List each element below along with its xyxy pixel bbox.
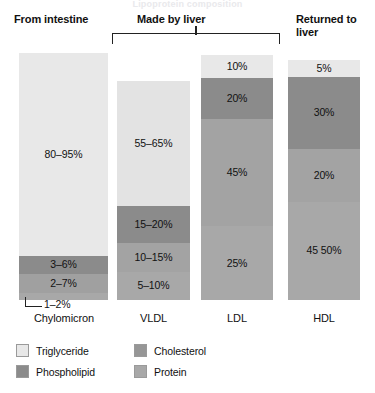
segment-label-vldl-phospholipid: 15–20% [135, 219, 173, 230]
bar-ldl: 10%20%45%25% [201, 55, 273, 300]
legend-swatch-triglyceride-icon [16, 344, 29, 357]
segment-ldl-triglyceride: 10% [201, 55, 273, 78]
segment-label-vldl-protein: 5–10% [137, 280, 169, 291]
legend-label-phospholipid: Phospholipid [36, 366, 95, 378]
segment-label-ldl-protein: 25% [227, 258, 248, 269]
group-header-from-intestine: From intestine [14, 13, 88, 26]
legend-label-cholesterol: Cholesterol [154, 345, 206, 357]
group-header-returned-to-liver: Returned to liver [296, 13, 374, 38]
cropped-title-artifact: Lipoprotein composition [0, 0, 375, 9]
segment-label-chylomicron-cholesterol: 2–7% [50, 278, 76, 289]
legend-item-cholesterol: Cholesterol [134, 344, 252, 357]
segment-vldl-protein: 5–10% [117, 272, 190, 300]
bar-vldl: 55–65%15–20%10–15%5–10% [117, 81, 190, 300]
bar-chylomicron: 80–95%3–6%2–7% [19, 53, 108, 300]
legend-swatch-protein-icon [134, 365, 147, 378]
segment-label-ldl-phospholipid: 20% [227, 93, 248, 104]
segment-label-hdl-protein: 45 50% [306, 245, 341, 256]
segment-label-vldl-triglyceride: 55–65% [135, 138, 173, 149]
segment-label-hdl-cholesterol: 20% [314, 170, 335, 181]
callout-leader-line [25, 297, 42, 307]
segment-label-hdl-triglyceride: 5% [317, 63, 332, 74]
legend: Triglyceride Cholesterol Phospholipid Pr… [16, 340, 266, 382]
segment-label-ldl-triglyceride: 10% [227, 61, 248, 72]
category-label-ldl: LDL [201, 312, 273, 324]
segment-label-vldl-cholesterol: 10–15% [135, 252, 173, 263]
segment-vldl-triglyceride: 55–65% [117, 81, 190, 206]
group-header-made-by-liver: Made by liver [137, 13, 205, 26]
legend-swatch-cholesterol-icon [134, 344, 147, 357]
group-bracket-made-by-liver [112, 33, 280, 44]
legend-item-triglyceride: Triglyceride [16, 344, 134, 357]
legend-label-triglyceride: Triglyceride [36, 345, 89, 357]
segment-chylomicron-phospholipid: 3–6% [19, 256, 108, 275]
segment-hdl-cholesterol: 20% [288, 149, 360, 202]
category-label-hdl: HDL [288, 312, 360, 324]
segment-hdl-protein: 45 50% [288, 202, 360, 300]
segment-hdl-triglyceride: 5% [288, 60, 360, 77]
segment-hdl-phospholipid: 30% [288, 77, 360, 149]
callout-label-protein-chylomicron: 1–2% [44, 299, 70, 310]
segment-ldl-protein: 25% [201, 226, 273, 300]
segment-ldl-phospholipid: 20% [201, 78, 273, 118]
legend-swatch-phospholipid-icon [16, 365, 29, 378]
legend-item-phospholipid: Phospholipid [16, 365, 134, 378]
segment-chylomicron-triglyceride: 80–95% [19, 53, 108, 256]
chart-canvas: Lipoprotein composition From intestine M… [0, 0, 375, 393]
legend-label-protein: Protein [154, 366, 187, 378]
segment-chylomicron-cholesterol: 2–7% [19, 274, 108, 293]
segment-label-ldl-cholesterol: 45% [227, 167, 248, 178]
segment-label-chylomicron-triglyceride: 80–95% [45, 149, 83, 160]
category-label-vldl: VLDL [117, 312, 190, 324]
legend-item-protein: Protein [134, 365, 252, 378]
segment-label-hdl-phospholipid: 30% [314, 107, 335, 118]
segment-label-chylomicron-phospholipid: 3–6% [50, 259, 76, 270]
segment-vldl-cholesterol: 10–15% [117, 243, 190, 271]
category-label-chylomicron: Chylomicron [9, 312, 119, 324]
segment-vldl-phospholipid: 15–20% [117, 206, 190, 243]
segment-ldl-cholesterol: 45% [201, 119, 273, 227]
bar-hdl: 5%30%20%45 50% [288, 60, 360, 300]
